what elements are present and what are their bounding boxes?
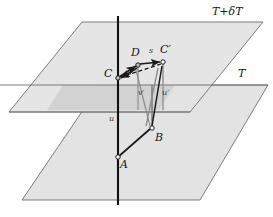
segment-label-u: u	[109, 115, 114, 123]
point-label-B: B	[155, 132, 163, 143]
geometry-figure: T+δT T C D C′ B A s u v′ u′	[0, 0, 273, 217]
point-label-C: C	[104, 68, 112, 79]
point-marker-B	[150, 126, 154, 130]
figure-canvas	[0, 0, 273, 217]
lower-plane-label: T	[238, 68, 245, 79]
point-label-D: D	[131, 47, 140, 58]
point-marker-D	[136, 63, 140, 67]
segment-label-s: s	[149, 47, 153, 55]
point-marker-C	[116, 76, 120, 80]
point-marker-Cprime	[161, 60, 165, 64]
segment-label-v-prime: v′	[138, 89, 144, 97]
segment-label-u-prime: u′	[162, 89, 169, 97]
point-label-Cprime: C′	[160, 44, 171, 55]
point-label-A: A	[120, 159, 128, 170]
upper-plane-label: T+δT	[212, 6, 243, 17]
